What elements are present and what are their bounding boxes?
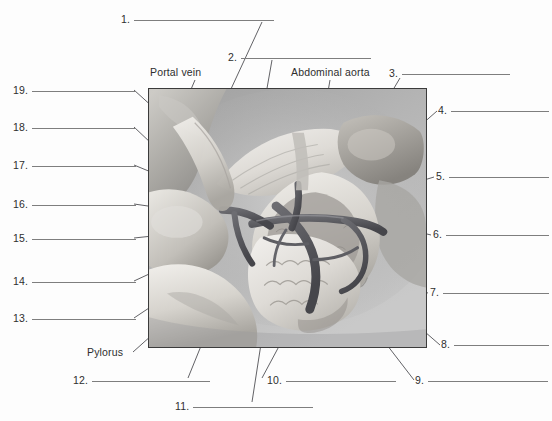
label-row-5[interactable]: 5. xyxy=(436,170,549,182)
label-row-10[interactable]: 10. xyxy=(267,374,396,386)
label-number-14: 14. xyxy=(13,275,28,287)
label-row-15[interactable]: 15. xyxy=(13,232,136,244)
label-row-2[interactable]: 2. xyxy=(228,51,371,63)
answer-blank-13[interactable] xyxy=(32,319,136,320)
label-row-14[interactable]: 14. xyxy=(13,275,136,287)
answer-blank-1[interactable] xyxy=(134,20,274,21)
organ-right-upper-highlight xyxy=(348,129,396,161)
label-number-12: 12. xyxy=(73,374,88,386)
label-number-3: 3. xyxy=(389,67,398,79)
label-row-3[interactable]: 3. xyxy=(389,67,510,79)
label-number-8: 8. xyxy=(441,338,450,350)
answer-blank-6[interactable] xyxy=(446,235,549,236)
label-number-18: 18. xyxy=(13,121,28,133)
answer-blank-12[interactable] xyxy=(92,381,210,382)
label-number-9: 9. xyxy=(415,374,424,386)
label-number-7: 7. xyxy=(430,286,439,298)
label-row-8[interactable]: 8. xyxy=(441,338,549,350)
label-number-13: 13. xyxy=(13,312,28,324)
answer-blank-3[interactable] xyxy=(402,74,510,75)
label-row-4[interactable]: 4. xyxy=(438,104,549,116)
label-portal-vein: Portal vein xyxy=(150,66,201,78)
label-number-19: 19. xyxy=(13,84,28,96)
label-row-13[interactable]: 13. xyxy=(13,312,136,324)
label-number-16: 16. xyxy=(13,198,28,210)
answer-blank-19[interactable] xyxy=(32,91,136,92)
label-number-4: 4. xyxy=(438,104,447,116)
answer-blank-8[interactable] xyxy=(454,345,549,346)
label-row-18[interactable]: 18. xyxy=(13,121,136,133)
label-row-1[interactable]: 1. xyxy=(121,13,274,25)
answer-blank-4[interactable] xyxy=(451,111,549,112)
label-number-10: 10. xyxy=(267,374,282,386)
answer-blank-5[interactable] xyxy=(449,177,549,178)
label-row-17[interactable]: 17. xyxy=(13,159,136,171)
label-number-15: 15. xyxy=(13,232,28,244)
label-row-7[interactable]: 7. xyxy=(430,286,549,298)
answer-blank-14[interactable] xyxy=(32,282,136,283)
answer-blank-18[interactable] xyxy=(32,128,136,129)
label-row-19[interactable]: 19. xyxy=(13,84,136,96)
label-row-12[interactable]: 12. xyxy=(73,374,210,386)
answer-blank-2[interactable] xyxy=(241,58,371,59)
answer-blank-9[interactable] xyxy=(428,381,548,382)
label-row-6[interactable]: 6. xyxy=(433,228,549,240)
worksheet-page: Portal vein Abdominal aorta Pylorus 1. 2… xyxy=(0,0,552,421)
answer-blank-15[interactable] xyxy=(32,239,136,240)
label-row-9[interactable]: 9. xyxy=(415,374,548,386)
anatomy-illustration xyxy=(148,88,427,348)
label-number-5: 5. xyxy=(436,170,445,182)
organ-pylorus-highlight xyxy=(151,206,203,238)
label-number-6: 6. xyxy=(433,228,442,240)
answer-blank-11[interactable] xyxy=(193,407,313,408)
anatomy-illustration-canvas xyxy=(149,89,426,347)
answer-blank-10[interactable] xyxy=(286,381,396,382)
label-abdominal-aorta: Abdominal aorta xyxy=(291,66,370,78)
label-row-16[interactable]: 16. xyxy=(13,198,136,210)
label-pylorus: Pylorus xyxy=(87,346,123,358)
label-number-17: 17. xyxy=(13,159,28,171)
answer-blank-17[interactable] xyxy=(32,166,136,167)
answer-blank-16[interactable] xyxy=(32,205,136,206)
label-number-2: 2. xyxy=(228,51,237,63)
answer-blank-7[interactable] xyxy=(443,293,549,294)
label-row-11[interactable]: 11. xyxy=(175,400,313,412)
label-number-1: 1. xyxy=(121,13,130,25)
label-number-11: 11. xyxy=(175,400,189,412)
